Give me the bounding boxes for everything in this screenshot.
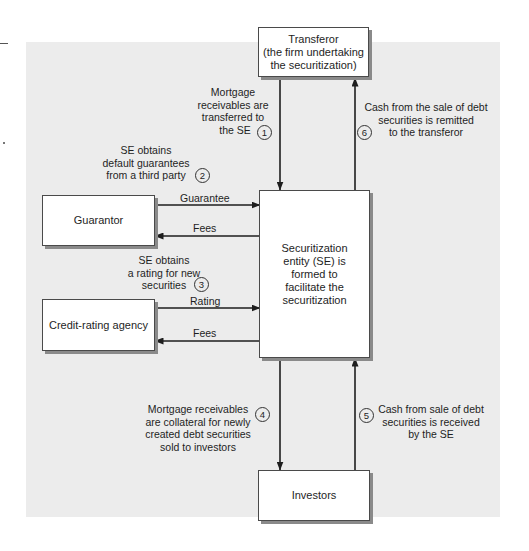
transferor-line: the securitization) <box>263 59 364 72</box>
step-2-line: default guarantees <box>100 157 192 170</box>
transferor-line: Transferor <box>263 33 364 46</box>
guarantee-label: Guarantee <box>180 192 230 205</box>
step-1-line: receivables are <box>193 99 273 112</box>
step-2-line: SE obtains <box>100 144 192 157</box>
step-4-line: are collateral for newly <box>143 416 253 429</box>
step-5-line: securities is received <box>376 416 486 429</box>
step-6-text: Cash from the sale of debt securities is… <box>362 101 490 139</box>
se-line: entity (SE) is <box>281 255 347 268</box>
step-1-line: Mortgage <box>193 86 273 99</box>
guarantor-fees-label: Fees <box>193 222 216 235</box>
step-6-line: to the transferor <box>362 126 490 139</box>
step-4-line: Mortgage receivables <box>143 403 253 416</box>
se-line: securitization <box>281 294 347 307</box>
step-2-text: SE obtains default guarantees from a thi… <box>100 144 192 182</box>
credit-rating-agency-label: Credit-rating agency <box>49 319 148 332</box>
step-4-text: Mortgage receivables are collateral for … <box>143 403 253 454</box>
step-6-line: securities is remitted <box>362 114 490 127</box>
step-4-marker: 4 <box>255 407 270 422</box>
se-line: facilitate the <box>281 281 347 294</box>
step-1-line: transferred to <box>193 111 273 124</box>
step-5-text: Cash from sale of debt securities is rec… <box>376 403 486 441</box>
step-3-marker: 3 <box>194 277 209 292</box>
rating-fees-label: Fees <box>193 327 216 340</box>
investors-label: Investors <box>292 489 337 502</box>
step-3-line: a rating for new <box>122 267 206 280</box>
transferor-box: Transferor (the firm undertaking the sec… <box>258 27 369 77</box>
rating-label: Rating <box>190 295 220 308</box>
step-3-line: SE obtains <box>122 254 206 267</box>
step-2-marker: 2 <box>195 168 210 183</box>
step-4-line: created debt securities <box>143 428 253 441</box>
step-2-line: from a third party <box>100 169 192 182</box>
securitization-entity-box: Securitization entity (SE) is formed to … <box>259 190 370 358</box>
step-5-marker: 5 <box>359 408 374 423</box>
step-6-line: Cash from the sale of debt <box>362 101 490 114</box>
step-4-line: sold to investors <box>143 441 253 454</box>
guarantor-label: Guarantor <box>74 214 124 227</box>
step-5-line: by the SE <box>376 428 486 441</box>
guarantor-box: Guarantor <box>42 195 155 246</box>
credit-rating-agency-box: Credit-rating agency <box>42 299 155 351</box>
step-1-marker: 1 <box>257 125 272 140</box>
transferor-line: (the firm undertaking <box>263 46 364 59</box>
se-line: Securitization <box>281 242 347 255</box>
step-5-line: Cash from sale of debt <box>376 403 486 416</box>
se-line: formed to <box>281 268 347 281</box>
investors-box: Investors <box>258 470 370 521</box>
